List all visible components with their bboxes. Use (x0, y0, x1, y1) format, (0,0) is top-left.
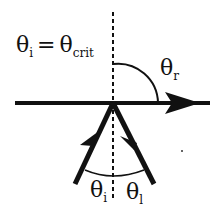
speck (181, 150, 183, 152)
internal-angle-label: θl (126, 179, 143, 207)
refraction-angle-arc (113, 64, 158, 103)
incidence-angle-arc (85, 170, 144, 176)
incident-angle-label: θi (90, 177, 107, 205)
reflected-angle-label: θr (160, 55, 179, 83)
critical-angle-label: θi=θcrit (16, 32, 94, 60)
critical-angle-diagram: θi=θcrit θr θi θl (0, 0, 223, 210)
